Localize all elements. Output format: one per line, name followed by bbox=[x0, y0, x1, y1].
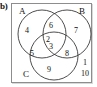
region-value-b-and-c: 8 bbox=[65, 50, 69, 58]
region-value-a-only: 4 bbox=[25, 27, 29, 35]
set-label-b: B bbox=[79, 7, 85, 16]
set-label-a: A bbox=[19, 7, 26, 16]
region-value-c-only: 9 bbox=[47, 66, 51, 74]
circle-set-c bbox=[30, 32, 78, 80]
region-value-a-and-c: 5 bbox=[30, 50, 34, 58]
set-label-c: C bbox=[23, 70, 29, 79]
part-label: b) bbox=[0, 1, 8, 11]
region-value-b-only: 7 bbox=[74, 27, 78, 35]
venn-diagram-figure: b) A B C 4 7 9 6 5 8 2 3 1 10 bbox=[0, 0, 97, 87]
region-value-outside-second: 10 bbox=[81, 70, 89, 78]
region-value-a-and-b: 6 bbox=[49, 22, 53, 30]
region-value-intersection-lower: 3 bbox=[49, 43, 53, 51]
region-value-outside-first: 1 bbox=[83, 59, 87, 67]
